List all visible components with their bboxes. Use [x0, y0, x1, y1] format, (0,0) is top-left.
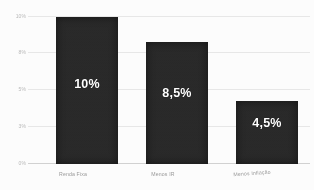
- plot-area: 10% 8,5% 4,5%: [28, 8, 310, 164]
- x-label-menos-ir: Menos IR: [122, 171, 204, 177]
- bar-value-label: 4,5%: [236, 116, 298, 130]
- bar-renda-fixa[interactable]: 10%: [56, 17, 118, 164]
- bar-menos-ir[interactable]: 8,5%: [146, 42, 208, 164]
- x-label-menos-inflacao: Menos Inflação: [210, 167, 294, 179]
- bar-value-label: 8,5%: [146, 86, 208, 100]
- y-tick-3: 3%: [0, 123, 26, 129]
- bar-menos-inflacao[interactable]: 4,5%: [236, 101, 298, 164]
- y-tick-10: 10%: [0, 13, 26, 19]
- bar-value-label: 10%: [56, 77, 118, 91]
- y-tick-0: 0%: [0, 160, 26, 166]
- x-label-renda-fixa: Renda Fixa: [32, 171, 114, 177]
- bar-chart: 10% 8,5% 4,5% 10% 8% 5% 3% 0% Renda Fixa…: [0, 0, 314, 190]
- y-tick-8: 8%: [0, 49, 26, 55]
- y-tick-5: 5%: [0, 86, 26, 92]
